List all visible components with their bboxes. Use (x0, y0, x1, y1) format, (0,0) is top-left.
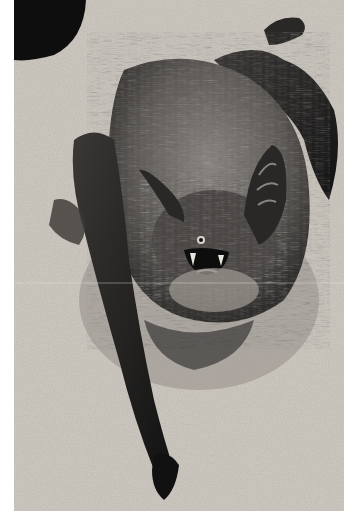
bat-photograph (14, 0, 344, 511)
bat-illustration (14, 0, 344, 511)
chest-fur (169, 268, 259, 312)
